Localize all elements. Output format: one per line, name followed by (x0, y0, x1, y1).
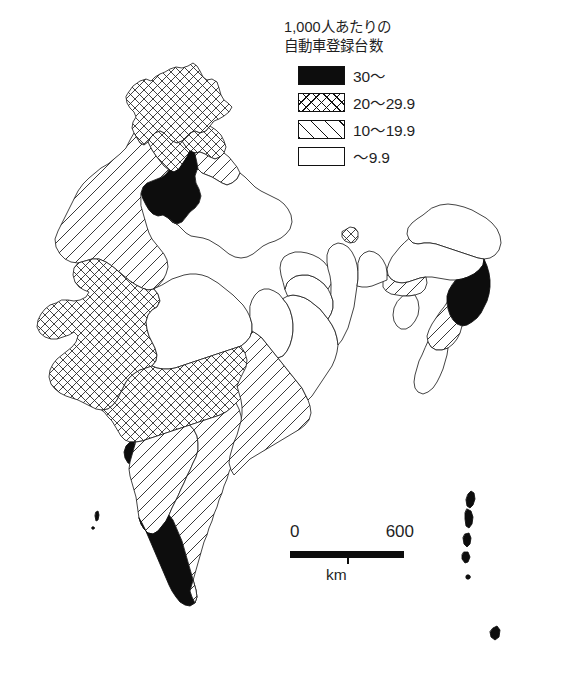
scale-bar-max-label: 600 (386, 522, 414, 542)
legend-label-blank: 〜9.9 (353, 145, 390, 167)
legend-swatch-crosshatch (298, 93, 345, 112)
map-figure: 1,000人あたりの 自動車登録台数 30〜 20〜29.9 10〜19.9 〜… (0, 0, 574, 674)
legend-item-crosshatch: 20〜29.9 (298, 89, 484, 116)
scale-bar-rule (290, 551, 404, 558)
region-tripura (393, 295, 419, 329)
region-northeast-corridor (357, 251, 387, 287)
legend-item-blank: 〜9.9 (298, 143, 484, 170)
scale-bar-midpoint-tick (347, 558, 349, 564)
legend-swatch-blank (298, 147, 345, 166)
region-sikkim (342, 227, 358, 243)
scale-bar-numbers: 0 600 (290, 522, 410, 544)
scale-bar-min-label: 0 (290, 522, 299, 542)
legend-label-solid: 30〜 (353, 64, 386, 86)
region-andaman-nicobar-islands (462, 491, 500, 640)
legend-label-diagonal: 10〜19.9 (353, 118, 415, 140)
region-mizoram (414, 342, 448, 394)
legend-swatch-solid (298, 66, 345, 85)
scale-bar: 0 600 km (290, 522, 410, 584)
legend-label-crosshatch: 20〜29.9 (353, 91, 415, 113)
legend-title: 1,000人あたりの 自動車登録台数 (284, 18, 484, 57)
legend-item-diagonal: 10〜19.9 (298, 116, 484, 143)
scale-bar-unit-label: km (326, 566, 410, 584)
legend-item-solid: 30〜 (298, 62, 484, 89)
region-lakshadweep (92, 511, 99, 529)
legend-swatch-diagonal (298, 120, 345, 139)
legend: 1,000人あたりの 自動車登録台数 30〜 20〜29.9 10〜19.9 〜… (284, 18, 484, 170)
